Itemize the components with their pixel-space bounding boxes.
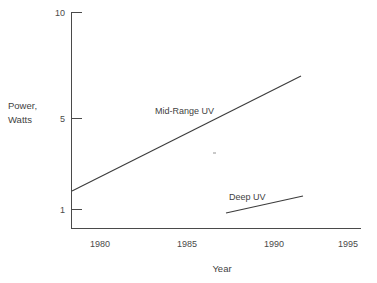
chart-figure: Power, Watts 10 5 1 1980 1985 1990 1995 … bbox=[0, 0, 377, 283]
y-tick-label-1: 1 bbox=[60, 205, 65, 215]
series-line-mid-range-uv bbox=[72, 76, 301, 191]
x-axis-title: Year bbox=[212, 263, 231, 274]
x-tick-label-1985: 1985 bbox=[177, 239, 197, 249]
x-tick-label-1995: 1995 bbox=[338, 239, 358, 249]
chart-canvas: 10 5 1 1980 1985 1990 1995 Mid-Range UV … bbox=[0, 0, 377, 283]
y-tick-label-10: 10 bbox=[55, 8, 65, 18]
series-annotation-deep-uv: Deep UV bbox=[229, 192, 266, 202]
x-tick-label-1980: 1980 bbox=[90, 239, 110, 249]
x-tick-label-1990: 1990 bbox=[264, 239, 284, 249]
series-annotation-mid-range-uv: Mid-Range UV bbox=[155, 106, 214, 116]
scan-speck bbox=[213, 152, 216, 154]
y-tick-label-5: 5 bbox=[60, 114, 65, 124]
